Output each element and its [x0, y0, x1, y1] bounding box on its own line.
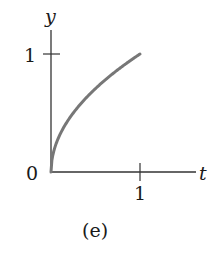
panel-label: (e)	[82, 219, 108, 241]
data-curve	[51, 54, 140, 172]
x-tick-label-1: 1	[134, 182, 146, 204]
x-axis-label: t	[199, 162, 207, 184]
origin-label: 0	[26, 162, 38, 184]
y-tick-label-1: 1	[24, 44, 36, 66]
y-axis-label: y	[44, 5, 56, 27]
chart: y 1 0 t 1 (e)	[0, 0, 218, 256]
